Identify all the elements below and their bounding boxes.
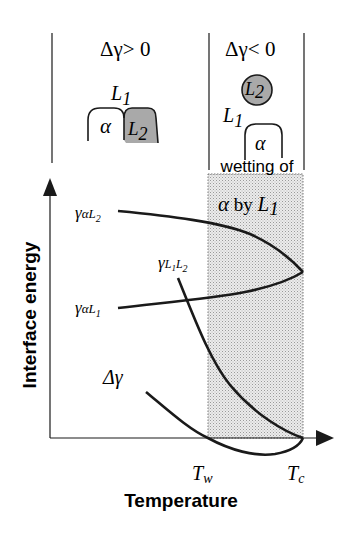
right-l1-label: L1 [222,104,243,131]
x-axis-title: Temperature [124,490,238,511]
droplet-l2-label: L2 [244,79,264,102]
tick-tc: Tc [287,462,305,486]
y-axis-arrow-icon [43,178,57,196]
gamma-alpha-l2-label: γαL2 [75,203,101,224]
wetting-label-line1: wetting of [220,157,294,176]
y-axis-title: Interface energy [19,241,40,388]
condition-negative-label: Δγ< 0 [225,37,275,61]
right-alpha-label: α [255,132,266,154]
tick-tw: Tw [192,462,213,486]
gamma-alpha-l1-label: γαL1 [75,298,101,319]
delta-gamma-label: Δγ [102,366,124,389]
gamma-l1-l2-label: γL1L2 [158,253,188,274]
left-alpha-label: α [100,114,112,138]
left-l1-label: L1 [110,82,131,109]
interface-energy-diagram: Δγ> 0 Δγ< 0 L1 α L2 L2 L1 α wetting of α… [0,0,350,536]
x-axis-arrow-icon [316,430,334,446]
condition-positive-label: Δγ> 0 [100,37,150,61]
